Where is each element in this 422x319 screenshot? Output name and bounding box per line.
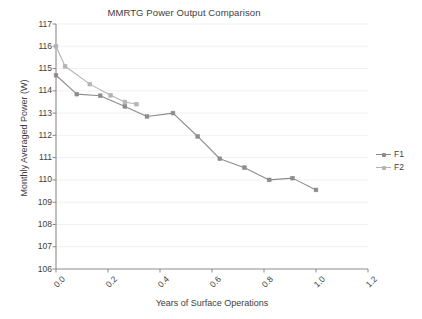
series-line-f1 xyxy=(56,75,316,190)
data-point-f1 xyxy=(196,135,200,139)
legend-marker-f2 xyxy=(376,164,391,171)
chart-figure: MMRTG Power Output Comparison Monthly Av… xyxy=(0,0,422,319)
data-point-f1 xyxy=(243,166,247,170)
data-point-f2 xyxy=(135,102,139,106)
data-point-f2 xyxy=(123,100,127,104)
data-point-f1 xyxy=(54,73,58,77)
data-point-f1 xyxy=(218,157,222,161)
data-point-f1 xyxy=(75,92,79,96)
data-point-f1 xyxy=(123,105,127,109)
data-point-f2 xyxy=(88,82,92,86)
legend-label-f1: F1 xyxy=(394,150,404,159)
data-point-f2 xyxy=(63,64,67,68)
data-point-f1 xyxy=(171,111,175,115)
data-point-f1 xyxy=(314,188,318,192)
data-point-f1 xyxy=(267,178,271,182)
data-point-f1 xyxy=(145,115,149,119)
data-point-f2 xyxy=(54,44,58,48)
chart-legend: F1 F2 xyxy=(376,148,422,174)
legend-item-f1[interactable]: F1 xyxy=(376,148,422,161)
data-point-f1 xyxy=(291,176,295,180)
legend-item-f2[interactable]: F2 xyxy=(376,161,422,174)
data-point-f2 xyxy=(109,93,113,97)
legend-marker-f1 xyxy=(376,151,391,158)
legend-label-f2: F2 xyxy=(394,163,404,172)
plot-area xyxy=(0,0,422,319)
data-point-f1 xyxy=(98,94,102,98)
